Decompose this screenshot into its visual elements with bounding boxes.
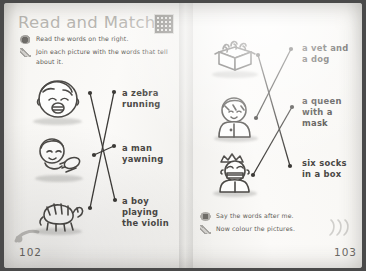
crayon-icon (200, 225, 211, 234)
qr-code-icon[interactable] (154, 14, 174, 34)
screenshot-root: Read and Match Read the words on the rig… (0, 0, 366, 271)
label-man-yawning[interactable]: a man yawning (122, 143, 163, 165)
instruction-text: Read the words on the right. (36, 34, 129, 44)
label-zebra-running[interactable]: a zebra running (122, 88, 161, 110)
bird-doodle-icon (12, 227, 46, 247)
queen-artwork (210, 151, 260, 195)
page-number-right: 103 (334, 246, 357, 258)
instruction-colour-pictures: Now colour the pictures. (200, 224, 330, 234)
instruction-text: Now colour the pictures. (216, 224, 295, 234)
instruction-text: Say the words after me. (216, 211, 294, 221)
page-title: Read and Match (18, 13, 156, 32)
violin-boy-picture[interactable] (32, 136, 86, 180)
mouth-speak-icon (200, 212, 211, 221)
yawning-boy-artwork (30, 75, 86, 123)
instruction-text: Join each picture with the words that te… (36, 47, 172, 66)
instruction-read-words: Read the words on the right. (20, 34, 170, 44)
vet-artwork (211, 96, 261, 140)
pencil-icon (20, 48, 31, 57)
page-number-left: 102 (19, 246, 42, 258)
yawning-boy-picture[interactable] (30, 75, 86, 123)
violin-boy-artwork (32, 136, 86, 180)
book-spread: Read and Match Read the words on the rig… (4, 3, 362, 268)
ear-listen-icon (20, 35, 31, 44)
instruction-join-picture: Join each picture with the words that te… (20, 47, 172, 66)
vet-picture[interactable] (211, 96, 261, 140)
label-queen-mask[interactable]: a queen with a mask (302, 96, 342, 128)
instruction-say-words: Say the words after me. (200, 211, 330, 221)
box-of-socks-artwork (209, 36, 261, 76)
box-of-socks-picture[interactable] (209, 36, 261, 76)
swirl-doodle-icon (326, 217, 352, 239)
book-spine (179, 3, 193, 268)
label-vet-dog[interactable]: a vet and a dog (302, 43, 349, 65)
queen-picture[interactable] (210, 151, 260, 195)
label-six-socks[interactable]: six socks in a box (302, 158, 347, 180)
label-boy-violin[interactable]: a boy playing the violin (122, 196, 169, 228)
